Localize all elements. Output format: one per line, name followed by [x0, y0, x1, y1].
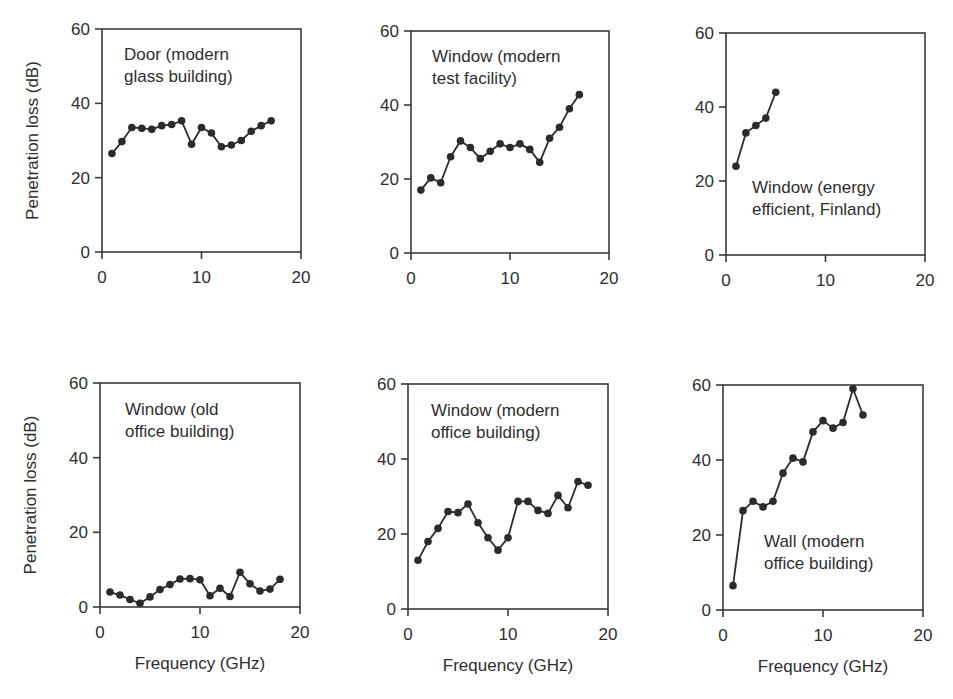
- data-point: [742, 129, 750, 137]
- data-point: [447, 153, 455, 161]
- x-axis-title: Frequency (GHz): [758, 657, 888, 676]
- data-point: [464, 500, 472, 508]
- y-tick-label: 60: [377, 375, 396, 394]
- data-point: [168, 121, 176, 129]
- data-line: [110, 572, 280, 603]
- data-point: [789, 454, 797, 462]
- data-point: [759, 503, 767, 511]
- data-point: [136, 599, 144, 607]
- x-tick-label: 10: [814, 626, 833, 645]
- data-point: [228, 141, 236, 149]
- y-tick-label: 40: [695, 98, 714, 117]
- data-point: [437, 179, 445, 187]
- x-tick-label: 10: [816, 271, 835, 290]
- panel-title: Window (energy: [752, 178, 875, 197]
- y-tick-label: 60: [69, 374, 88, 393]
- x-tick-label: 10: [191, 623, 210, 642]
- data-point: [434, 525, 442, 533]
- x-tick-label: 20: [292, 268, 311, 287]
- data-point: [106, 588, 114, 596]
- data-point: [477, 155, 485, 163]
- y-tick-label: 20: [692, 526, 711, 545]
- data-point: [504, 534, 512, 542]
- data-point: [752, 122, 760, 130]
- figure-panels: 020406001020Penetration loss (dB)Door (m…: [0, 0, 953, 699]
- data-point: [208, 129, 216, 137]
- x-tick-label: 0: [97, 268, 106, 287]
- x-tick-label: 20: [291, 623, 310, 642]
- data-point: [496, 140, 504, 148]
- y-tick-label: 60: [695, 24, 714, 43]
- data-point: [266, 585, 274, 593]
- y-tick-label: 20: [71, 169, 90, 188]
- data-point: [506, 144, 514, 152]
- data-point: [427, 174, 435, 182]
- data-point: [732, 162, 740, 170]
- panel-title: Window (modern: [432, 47, 561, 66]
- x-tick-label: 10: [192, 268, 211, 287]
- data-point: [554, 492, 562, 500]
- data-point: [829, 424, 837, 432]
- data-point: [236, 568, 244, 576]
- y-tick-label: 0: [81, 243, 90, 262]
- plot-frame: [726, 33, 925, 255]
- panel-title: office building): [125, 422, 234, 441]
- y-axis-title: Penetration loss (dB): [23, 61, 42, 220]
- data-point: [526, 146, 534, 154]
- y-tick-label: 40: [692, 451, 711, 470]
- data-point: [584, 481, 592, 489]
- data-point: [226, 593, 234, 601]
- y-tick-label: 60: [380, 22, 399, 41]
- panel-title: Wall (modern: [764, 532, 864, 551]
- data-point: [196, 576, 204, 584]
- data-point: [536, 159, 544, 167]
- chart-panel: 020406001020Frequency (GHz)Window (moder…: [377, 375, 617, 675]
- x-axis-title: Frequency (GHz): [135, 654, 265, 673]
- x-tick-label: 20: [599, 625, 618, 644]
- y-tick-label: 20: [69, 523, 88, 542]
- data-point: [238, 137, 246, 145]
- data-point: [256, 587, 264, 595]
- data-point: [514, 498, 522, 506]
- data-point: [176, 575, 184, 583]
- data-point: [546, 135, 554, 143]
- data-point: [116, 591, 124, 599]
- data-point: [417, 186, 425, 194]
- panel-title: Door (modern: [124, 45, 229, 64]
- x-tick-label: 20: [914, 626, 933, 645]
- data-point: [246, 580, 254, 588]
- chart-panel: 020406001020Penetration loss (dB)Door (m…: [23, 20, 310, 287]
- data-point: [166, 581, 174, 589]
- data-point: [108, 150, 116, 158]
- y-tick-label: 40: [380, 96, 399, 115]
- data-line: [112, 121, 271, 154]
- data-point: [859, 411, 867, 419]
- data-point: [729, 582, 737, 590]
- x-tick-label: 0: [95, 623, 104, 642]
- data-point: [444, 508, 452, 516]
- data-point: [414, 556, 422, 564]
- data-point: [576, 91, 584, 99]
- data-point: [839, 419, 847, 427]
- y-tick-label: 20: [380, 170, 399, 189]
- panel-title: Window (modern: [431, 401, 560, 420]
- y-tick-label: 60: [71, 20, 90, 39]
- x-tick-label: 0: [406, 269, 415, 288]
- data-point: [819, 417, 827, 425]
- data-point: [534, 507, 542, 515]
- y-tick-label: 0: [387, 600, 396, 619]
- x-tick-label: 20: [600, 269, 619, 288]
- data-line: [418, 482, 588, 561]
- chart-panel: 020406001020Frequency (GHz)Wall (moderno…: [692, 376, 932, 676]
- data-point: [564, 504, 572, 512]
- panel-title: glass building): [124, 67, 233, 86]
- data-point: [739, 507, 747, 515]
- data-point: [749, 497, 757, 505]
- panel-title: office building): [431, 423, 540, 442]
- data-point: [146, 593, 154, 601]
- data-point: [474, 519, 482, 527]
- data-point: [566, 105, 574, 113]
- data-point: [809, 428, 817, 436]
- data-point: [769, 497, 777, 505]
- data-point: [772, 88, 780, 96]
